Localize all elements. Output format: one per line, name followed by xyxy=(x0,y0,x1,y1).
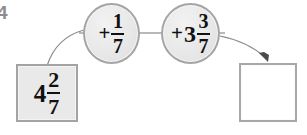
operation-2-numerator: 3 xyxy=(197,11,209,32)
operation-2-expression: + 3 3 7 xyxy=(171,11,210,57)
operation-2-sign: + xyxy=(171,23,183,44)
operation-1-sign: + xyxy=(99,23,111,44)
connector-input-to-op1 xyxy=(47,30,84,66)
connector-op2-to-output xyxy=(220,36,266,58)
input-whole-part: 4 xyxy=(34,81,47,106)
operation-1-denominator: 7 xyxy=(112,36,124,57)
output-answer-box[interactable] xyxy=(239,63,297,122)
arrowhead-icon xyxy=(259,52,269,62)
operation-1-fraction: 1 7 xyxy=(111,11,124,57)
input-fraction: 2 7 xyxy=(47,68,60,118)
worksheet-canvas: 4 4 2 7 + 1 7 xyxy=(0,0,307,135)
operation-1-numerator: 1 xyxy=(112,11,124,32)
input-mixed-number: 4 2 7 xyxy=(34,68,61,118)
input-denominator: 7 xyxy=(47,95,60,118)
operation-circle-2[interactable]: + 3 3 7 xyxy=(161,3,220,64)
operation-2-whole-part: 3 xyxy=(184,22,196,46)
operation-1-expression: + 1 7 xyxy=(99,11,125,57)
operation-2-denominator: 7 xyxy=(197,36,209,57)
corner-number-mark: 4 xyxy=(0,0,13,26)
input-numerator: 2 xyxy=(47,68,60,91)
operation-circle-1[interactable]: + 1 7 xyxy=(83,3,140,64)
input-value-box[interactable]: 4 2 7 xyxy=(16,64,78,122)
operation-2-fraction: 3 7 xyxy=(197,11,210,57)
